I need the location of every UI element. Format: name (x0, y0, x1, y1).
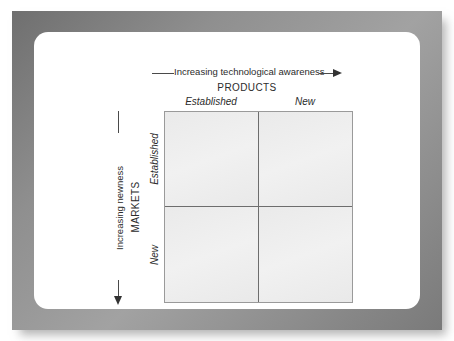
products-axis-title: PRODUCTS (152, 82, 342, 93)
row-header-established: Established (146, 111, 162, 207)
arrow-right-icon (333, 69, 342, 77)
row-header-new: New (146, 207, 162, 303)
column-header-established: Established (164, 96, 258, 107)
vertical-axis-line-bottom (118, 280, 119, 296)
diagram-stage: Increasing technological awareness PRODU… (34, 32, 420, 309)
markets-axis-title-text: MARKETS (130, 181, 141, 232)
matrix-cell-new-products-established-markets[interactable] (259, 112, 353, 207)
markets-axis-title: MARKETS (128, 111, 142, 303)
figure-root: Increasing technological awareness PRODU… (0, 0, 454, 341)
vertical-axis-label: Increasing newness (114, 166, 125, 250)
matrix-grid (164, 111, 353, 303)
vertical-axis-line-top (118, 111, 119, 133)
matrix-cell-established-products-established-markets[interactable] (165, 112, 259, 207)
arrow-down-icon (114, 296, 122, 305)
matrix-cell-new-products-new-markets[interactable] (259, 207, 353, 302)
horizontal-axis: Increasing technological awareness (152, 67, 342, 81)
row-header-established-text: Established (149, 133, 160, 185)
figure-outer-frame: Increasing technological awareness PRODU… (12, 11, 442, 330)
horizontal-axis-label: Increasing technological awareness (174, 65, 319, 79)
figure-inner-panel: Increasing technological awareness PRODU… (34, 32, 420, 309)
matrix-cell-established-products-new-markets[interactable] (165, 207, 259, 302)
horizontal-axis-line-right (319, 73, 333, 74)
column-header-new: New (258, 96, 352, 107)
horizontal-axis-line-left (152, 73, 174, 74)
row-header-new-text: New (149, 245, 160, 265)
vertical-axis: Increasing newness (112, 111, 126, 305)
